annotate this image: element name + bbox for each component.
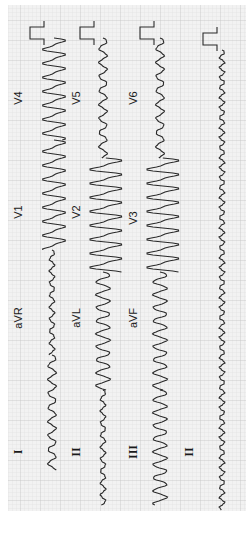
lead-label-v5: V5	[70, 91, 82, 104]
lead-label-ii: II	[69, 447, 83, 457]
lead-label-v3: V3	[127, 211, 139, 224]
lead-label-avl: aVL	[70, 308, 82, 328]
lead-label-v2: V2	[70, 205, 82, 218]
lead-label-ii: II	[182, 447, 196, 457]
grid-lines	[8, 5, 246, 511]
lead-label-v1: V1	[12, 205, 24, 218]
lead-label-iii: III	[126, 445, 140, 459]
lead-label-i: I	[11, 449, 25, 454]
lead-label-avr: aVR	[12, 307, 24, 328]
lead-label-v4: V4	[12, 91, 24, 104]
ecg-image: IaVRV1V4IIaVLV2V5IIIaVFV3V6II	[0, 0, 250, 536]
lead-label-avf: aVF	[127, 308, 139, 328]
lead-label-v6: V6	[127, 91, 139, 104]
ecg-canvas: IaVRV1V4IIaVLV2V5IIIaVFV3V6II	[0, 0, 250, 536]
